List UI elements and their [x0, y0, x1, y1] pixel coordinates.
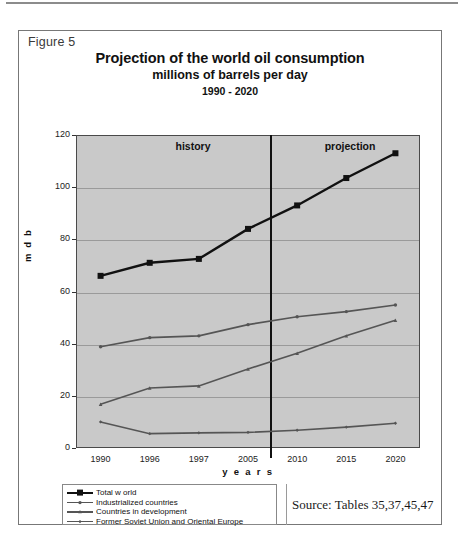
legend-item-label: Countries in development [96, 507, 187, 516]
chart-year-range: 1990 - 2020 [18, 85, 442, 97]
chart-legend: Total w orldIndustrialized countriesCoun… [62, 484, 277, 525]
chart-subtitle: millions of barrels per day [18, 68, 442, 82]
legend-marker-icon [67, 488, 93, 497]
chart-title: Projection of the world oil consumption [18, 50, 442, 66]
legend-marker-icon [67, 498, 93, 507]
legend-item-label: Former Soviet Union and Oriental Europe [96, 517, 243, 526]
legend-marker-icon [67, 507, 93, 516]
x-axis-label: y e a r s [76, 466, 420, 477]
y-axis-label: m d b [22, 229, 33, 262]
figure-frame [18, 30, 442, 525]
legend-item: Former Soviet Union and Oriental Europe [67, 517, 276, 526]
legend-item: Industrialized countries [67, 498, 276, 507]
legend-item: Countries in development [67, 507, 276, 516]
chart-title-block: Projection of the world oil consumption … [18, 50, 442, 97]
figure-label: Figure 5 [28, 35, 75, 49]
legend-item-label: Industrialized countries [96, 498, 178, 507]
legend-marker-icon [67, 517, 93, 526]
source-note: Source: Tables 35,37,45,47 [292, 497, 433, 513]
top-rule [6, 2, 458, 4]
legend-item: Total w orld [67, 488, 276, 497]
legend-item-label: Total w orld [96, 488, 136, 497]
legend-source-divider [286, 484, 287, 525]
